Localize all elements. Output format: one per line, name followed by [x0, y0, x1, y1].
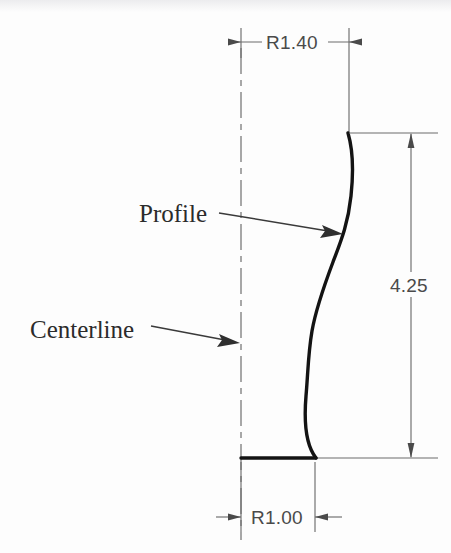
dimension-425: 4.25 — [318, 133, 438, 458]
dimension-r140: R1.40 — [228, 28, 362, 133]
r100-arrowhead-right — [315, 513, 328, 520]
profile-leader-line — [219, 213, 328, 231]
drawing-svg: R1.40 4.25 — [0, 0, 451, 553]
profile-leader-arrowhead — [320, 225, 343, 238]
r140-arrowhead-right — [349, 38, 362, 45]
annotation-centerline: Centerline — [30, 316, 240, 347]
r140-label: R1.40 — [266, 32, 318, 53]
centerline-leader-line — [151, 326, 225, 340]
dim425-arrowhead-bottom — [408, 443, 415, 458]
dimension-r100: R1.00 — [216, 462, 342, 532]
dim425-arrowhead-top — [408, 133, 415, 148]
centerline-leader-arrowhead — [217, 334, 240, 347]
profile-curve — [305, 133, 353, 458]
technical-drawing-canvas: R1.40 4.25 — [0, 0, 451, 553]
profile-label: Profile — [139, 200, 207, 227]
r140-arrowhead-left — [228, 38, 241, 45]
centerline-label: Centerline — [30, 316, 134, 343]
r100-arrowhead-left — [228, 513, 241, 520]
r100-label: R1.00 — [251, 507, 303, 528]
dim425-label: 4.25 — [390, 275, 428, 296]
